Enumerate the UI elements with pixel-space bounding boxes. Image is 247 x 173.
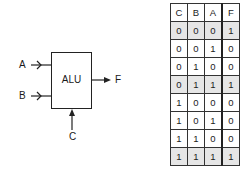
cell: 1 <box>222 76 240 94</box>
output-f-arrow <box>92 77 111 83</box>
input-c-arrow <box>69 109 75 130</box>
table-row: 0 1 1 1 <box>171 76 240 94</box>
input-b-label: B <box>19 91 26 101</box>
table-row: 0 0 1 0 <box>171 40 240 58</box>
input-b-arrow <box>31 92 51 100</box>
cell: 0 <box>188 40 205 58</box>
cell: 1 <box>222 22 240 40</box>
table-row: 0 0 0 1 <box>171 22 240 40</box>
alu-label: ALU <box>51 74 92 85</box>
cell: 1 <box>171 94 188 112</box>
cell: 1 <box>188 148 205 166</box>
table-row: 1 0 1 0 <box>171 112 240 130</box>
cell: 1 <box>188 58 205 76</box>
input-a-label: A <box>19 60 26 70</box>
header-b: B <box>188 4 205 22</box>
cell: 0 <box>188 94 205 112</box>
cell: 0 <box>222 130 240 148</box>
table-row: 1 1 1 1 <box>171 148 240 166</box>
cell: 0 <box>188 112 205 130</box>
cell: 1 <box>171 148 188 166</box>
output-f-label: F <box>115 75 121 85</box>
cell: 1 <box>188 130 205 148</box>
cell: 0 <box>222 58 240 76</box>
cell: 0 <box>205 130 223 148</box>
cell: 1 <box>205 40 223 58</box>
header-c: C <box>171 4 188 22</box>
cell: 1 <box>188 76 205 94</box>
cell: 1 <box>205 148 223 166</box>
cell: 1 <box>205 112 223 130</box>
cell: 0 <box>171 22 188 40</box>
alu-block-diagram: ALU A B C F <box>0 0 130 173</box>
input-a-arrow <box>31 61 51 69</box>
cell: 1 <box>205 76 223 94</box>
header-f: F <box>222 4 240 22</box>
header-a: A <box>205 4 223 22</box>
cell: 1 <box>222 148 240 166</box>
table-row: 1 0 0 0 <box>171 94 240 112</box>
cell: 0 <box>171 58 188 76</box>
cell: 0 <box>222 40 240 58</box>
cell: 0 <box>171 40 188 58</box>
cell: 0 <box>222 94 240 112</box>
cell: 0 <box>171 76 188 94</box>
cell: 0 <box>205 94 223 112</box>
cell: 1 <box>171 112 188 130</box>
cell: 0 <box>205 22 223 40</box>
truth-table-header: C B A F <box>171 4 240 22</box>
cell: 0 <box>222 112 240 130</box>
cell: 0 <box>205 58 223 76</box>
input-c-label: C <box>69 132 76 142</box>
cell: 1 <box>171 130 188 148</box>
truth-table: C B A F 0 0 0 1 0 0 1 0 0 1 0 0 0 1 1 1 … <box>170 3 240 166</box>
cell: 0 <box>188 22 205 40</box>
table-row: 1 1 0 0 <box>171 130 240 148</box>
table-row: 0 1 0 0 <box>171 58 240 76</box>
